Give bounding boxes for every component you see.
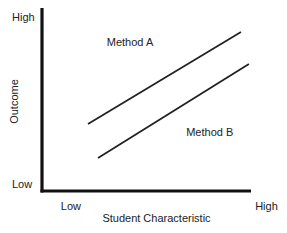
series-label-method-a: Method A <box>107 36 154 48</box>
y-axis-label: Outcome <box>8 79 20 124</box>
series-line-method-b <box>98 64 249 158</box>
series-label-method-b: Method B <box>186 126 233 138</box>
chart: Method AMethod B LowHighLowHigh Student … <box>0 0 287 233</box>
y-tick-label-low: Low <box>12 178 32 190</box>
x-axis-label: Student Characteristic <box>102 212 211 224</box>
y-tick-label-high: High <box>12 11 35 23</box>
x-tick-label-high: High <box>255 200 278 212</box>
x-tick-label-low: Low <box>61 200 81 212</box>
series-layer: Method AMethod B <box>88 32 249 158</box>
